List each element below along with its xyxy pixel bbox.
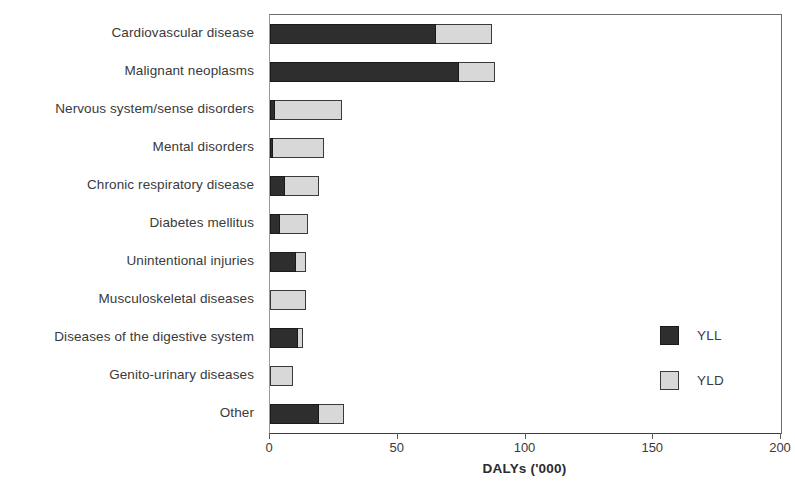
category-label: Genito-urinary diseases <box>0 368 254 382</box>
dark-square-icon <box>660 326 679 345</box>
chart-legend: YLL YLD <box>660 326 750 416</box>
x-axis-tick-label: 200 <box>769 440 791 455</box>
legend-item-yld: YLD <box>660 371 750 390</box>
bar-segment-yld <box>436 24 492 44</box>
bar-row <box>270 290 306 310</box>
bar-segment-yll <box>270 252 296 272</box>
legend-item-label: YLD <box>697 373 724 388</box>
category-label: Nervous system/sense disorders <box>0 102 254 116</box>
bar-row <box>270 252 306 272</box>
category-label: Cardiovascular disease <box>0 26 254 40</box>
x-axis-tick <box>397 433 398 439</box>
category-label: Malignant neoplasms <box>0 64 254 78</box>
x-axis-tick-label: 100 <box>514 440 536 455</box>
category-label: Musculoskeletal diseases <box>0 292 254 306</box>
category-label: Mental disorders <box>0 140 254 154</box>
category-label: Diseases of the digestive system <box>0 330 254 344</box>
bar-segment-yll <box>270 24 436 44</box>
bar-row <box>270 328 303 348</box>
bar-row <box>270 62 495 82</box>
bar-row <box>270 366 293 386</box>
bar-row <box>270 24 492 44</box>
category-label: Chronic respiratory disease <box>0 178 254 192</box>
category-axis-labels: Cardiovascular diseaseMalignant neoplasm… <box>0 14 262 432</box>
bar-segment-yld <box>298 328 303 348</box>
bar-segment-yld <box>270 290 306 310</box>
x-axis-tick-label: 50 <box>390 440 404 455</box>
bar-row <box>270 214 308 234</box>
x-axis-tick <box>269 433 270 439</box>
bar-segment-yld <box>285 176 318 196</box>
bar-segment-yld <box>270 366 293 386</box>
bar-segment-yll <box>270 328 298 348</box>
category-label: Other <box>0 406 254 420</box>
x-axis-tick-label: 0 <box>265 440 272 455</box>
bar-segment-yld <box>275 100 341 120</box>
bar-segment-yll <box>270 404 319 424</box>
legend-item-yll: YLL <box>660 326 750 345</box>
bar-segment-yld <box>273 138 324 158</box>
bar-row <box>270 176 319 196</box>
bar-segment-yld <box>319 404 345 424</box>
bar-row <box>270 100 342 120</box>
light-square-icon <box>660 371 679 390</box>
bar-row <box>270 138 324 158</box>
x-axis-tick <box>525 433 526 439</box>
x-axis-tick-label: 150 <box>641 440 663 455</box>
bar-segment-yld <box>280 214 308 234</box>
bar-segment-yll <box>270 176 285 196</box>
x-axis-tick <box>652 433 653 439</box>
x-axis-tick <box>780 433 781 439</box>
bar-segment-yll <box>270 214 280 234</box>
bar-segment-yld <box>459 62 495 82</box>
bar-row <box>270 404 344 424</box>
x-axis-title: DALYs ('000) <box>269 461 780 476</box>
bar-segment-yld <box>296 252 306 272</box>
category-label: Unintentional injuries <box>0 254 254 268</box>
bar-segment-yll <box>270 62 459 82</box>
category-label: Diabetes mellitus <box>0 216 254 230</box>
legend-item-label: YLL <box>697 328 722 343</box>
dalys-stacked-bar-chart: Cardiovascular diseaseMalignant neoplasm… <box>0 0 795 486</box>
